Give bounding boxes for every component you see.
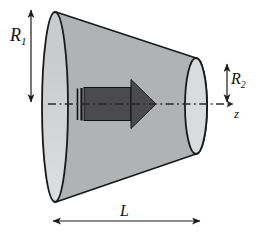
- r1-label: R1: [9, 25, 27, 47]
- z-label: z: [233, 106, 239, 121]
- flow-arrow-body: [84, 88, 131, 121]
- r2-label: R2: [230, 70, 246, 90]
- frustum-right-face: [185, 58, 207, 154]
- frustum-diagram: R1 R2 L z: [0, 0, 257, 232]
- left-face-highlight: [44, 14, 67, 200]
- diagram-canvas: R1 R2 L z: [0, 0, 257, 232]
- l-label: L: [119, 202, 129, 219]
